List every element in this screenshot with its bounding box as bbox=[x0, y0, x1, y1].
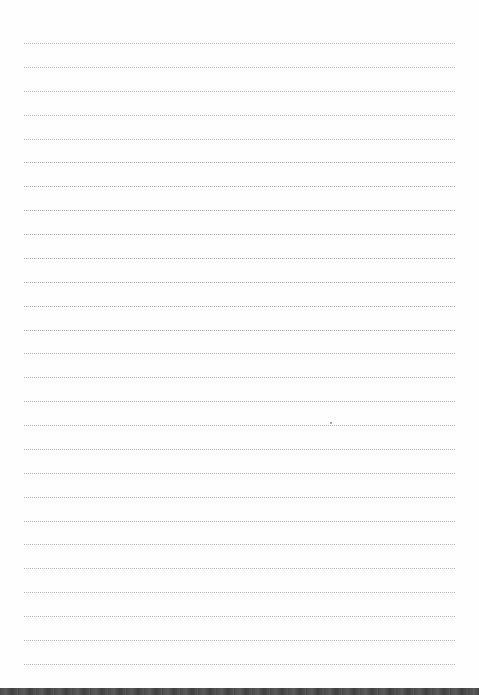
page-bottom-edge bbox=[0, 688, 479, 695]
ruled-line bbox=[24, 210, 455, 211]
ruled-line bbox=[24, 544, 455, 545]
ruled-line bbox=[24, 43, 455, 44]
ruled-line bbox=[24, 640, 455, 641]
ruled-line bbox=[24, 568, 455, 569]
ruled-line bbox=[24, 282, 455, 283]
ruled-line bbox=[24, 91, 455, 92]
ruled-line bbox=[24, 377, 455, 378]
ink-speck bbox=[330, 422, 332, 424]
ruled-line bbox=[24, 353, 455, 354]
ruled-line bbox=[24, 616, 455, 617]
ruled-line bbox=[24, 521, 455, 522]
ruled-line bbox=[24, 186, 455, 187]
ruled-line bbox=[24, 401, 455, 402]
ruled-line bbox=[24, 592, 455, 593]
ruled-lines bbox=[0, 0, 479, 688]
notebook-page bbox=[0, 0, 479, 688]
ruled-line bbox=[24, 139, 455, 140]
ruled-line bbox=[24, 115, 455, 116]
ruled-line bbox=[24, 258, 455, 259]
ruled-line bbox=[24, 497, 455, 498]
ruled-line bbox=[24, 234, 455, 235]
ruled-line bbox=[24, 425, 455, 426]
ruled-line bbox=[24, 449, 455, 450]
ruled-line bbox=[24, 306, 455, 307]
ruled-line bbox=[24, 473, 455, 474]
ruled-line bbox=[24, 330, 455, 331]
ruled-line bbox=[24, 162, 455, 163]
ruled-line bbox=[24, 664, 455, 665]
ruled-line bbox=[24, 67, 455, 68]
